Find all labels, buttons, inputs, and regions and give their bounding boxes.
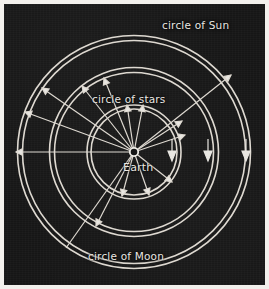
astronomy-diagram-figure: circle of Sun circle of stars circle of … xyxy=(0,0,269,289)
diagram-plate: circle of Sun circle of stars circle of … xyxy=(4,4,265,285)
spoke-125-plain xyxy=(66,152,134,248)
motion-arrow-2 xyxy=(204,139,212,161)
diagram-artwork xyxy=(4,4,265,285)
earth-marker xyxy=(130,148,138,156)
spoke-180 xyxy=(16,149,134,155)
motion-arrow-3 xyxy=(242,139,250,161)
motion-arrow-1 xyxy=(168,139,176,161)
radial-spokes xyxy=(16,72,233,248)
spoke-100 xyxy=(119,152,134,197)
